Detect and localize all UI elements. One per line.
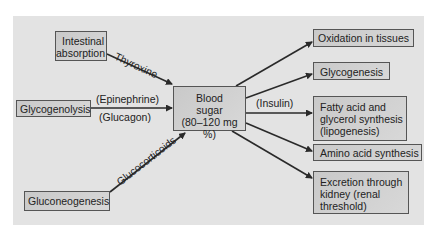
box-oxidation-in-tissues: Oxidation in tissues (313, 29, 414, 47)
box-line: sugar (174, 104, 245, 116)
arrow-blood-to-glycogenesis (246, 74, 312, 98)
box-line: (80–120 mg %) (174, 116, 245, 140)
box-line: glycerol synthesis (320, 113, 406, 125)
box-fatty-acid-synthesis: Fatty acid and glycerol synthesis (lipog… (313, 96, 407, 141)
box-line: (lipogenesis) (320, 125, 406, 137)
box-line: Oxidation in tissues (318, 32, 413, 44)
box-line: kidney (renal (320, 188, 408, 200)
edge-label-insulin: (Insulin) (256, 97, 293, 109)
box-line: Intestinal (56, 35, 104, 47)
box-line: absorption (56, 47, 104, 59)
box-line: Glycogenesis (320, 66, 389, 78)
box-excretion-through-kidney: Excretion through kidney (renal threshol… (313, 171, 409, 214)
box-line: Fatty acid and (320, 101, 406, 113)
box-line: Glycogenolysis (20, 103, 90, 115)
box-line: threshold) (320, 200, 408, 212)
box-line: Amino acid synthesis (320, 147, 421, 159)
arrow-blood-to-amino-acid (246, 123, 312, 151)
edge-label-glucagon: (Glucagon) (99, 111, 151, 123)
box-glycogenesis: Glycogenesis (313, 62, 390, 80)
box-blood-sugar: Blood sugar (80–120 mg %) (173, 86, 246, 131)
box-line: Blood (174, 92, 245, 104)
box-gluconeogenesis: Gluconeogenesis (24, 191, 110, 211)
box-line: Gluconeogenesis (28, 195, 109, 207)
edge-label-epinephrine: (Epinephrine) (96, 93, 159, 105)
box-amino-acid-synthesis: Amino acid synthesis (313, 144, 422, 161)
box-intestinal-absorption: Intestinal absorption (55, 31, 107, 61)
box-glycogenolysis: Glycogenolysis (16, 100, 91, 117)
arrow-blood-to-oxidation (236, 42, 312, 86)
box-line: Excretion through (320, 176, 408, 188)
